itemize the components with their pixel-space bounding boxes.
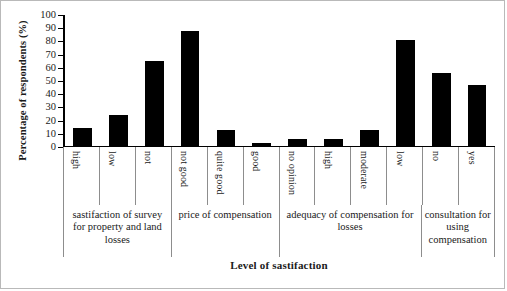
group-heading-label: price of compensation — [178, 209, 271, 221]
bar-slot — [280, 15, 316, 146]
category-cell: good — [244, 147, 280, 205]
bar-slot — [136, 15, 172, 146]
y-axis-tick — [58, 68, 63, 69]
bar-chart-figure: Percentage of respondents (%) 0102030405… — [0, 0, 505, 289]
y-axis-tick-label: 30 — [46, 102, 57, 113]
y-axis-tick — [58, 134, 63, 135]
y-axis-tick-label: 70 — [46, 49, 57, 60]
y-axis-tick — [58, 94, 63, 95]
y-axis-tick — [58, 28, 63, 29]
category-cell: low — [100, 147, 136, 205]
bar — [432, 73, 451, 146]
bar — [73, 128, 92, 145]
group-heading-cell: consultation for using compensation — [422, 205, 496, 257]
group-heading-cell: adequacy of compensation for losses — [280, 205, 422, 257]
y-axis-title: Percentage of respondents (%) — [17, 16, 28, 166]
y-axis-tick — [58, 81, 63, 82]
y-axis-tick-label: 100 — [40, 10, 56, 21]
category-label: moderate — [359, 151, 369, 189]
category-label: low — [395, 151, 405, 166]
bar — [396, 40, 415, 146]
category-label-table: highlownotnot goodquite goodgoodno opini… — [63, 147, 495, 257]
x-axis-title: Level of sastifaction — [63, 259, 495, 271]
y-axis-tick-label: 0 — [51, 142, 56, 153]
bar — [324, 139, 343, 146]
bar — [468, 85, 487, 146]
bar — [360, 130, 379, 146]
bar-slot — [387, 15, 423, 146]
group-heading-row: sastifaction of survey for property and … — [64, 205, 495, 257]
group-heading-cell: sastifaction of survey for property and … — [64, 205, 172, 257]
y-axis-tick — [58, 121, 63, 122]
group-heading-label: consultation for using compensation — [424, 209, 493, 246]
bar-slot — [316, 15, 352, 146]
bar-slot — [423, 15, 459, 146]
category-cell: no — [423, 147, 459, 205]
y-axis-tick-label: 80 — [46, 36, 57, 47]
bar — [217, 130, 236, 146]
y-axis-tick-label: 40 — [46, 89, 57, 100]
category-label: not good — [179, 151, 189, 187]
category-cell: high — [315, 147, 351, 205]
y-axis-tick-label: 50 — [46, 76, 57, 87]
category-label: high — [71, 151, 81, 169]
group-heading-label: adequacy of compensation for losses — [282, 209, 419, 234]
category-label: high — [323, 151, 333, 169]
category-cell: yes — [459, 147, 495, 205]
category-label: quite good — [215, 151, 225, 195]
plot-area: 0102030405060708090100 — [63, 15, 495, 147]
bar — [109, 115, 128, 145]
category-label: no — [431, 151, 441, 161]
y-axis-tick-label: 20 — [46, 115, 57, 126]
y-axis-tick-label: 90 — [46, 23, 57, 34]
y-axis-tick — [58, 107, 63, 108]
category-row: highlownotnot goodquite goodgoodno opini… — [64, 147, 495, 205]
category-cell: low — [387, 147, 423, 205]
y-axis-tick — [58, 15, 63, 16]
bar — [252, 143, 271, 146]
bar-slot — [459, 15, 495, 146]
category-cell: high — [64, 147, 100, 205]
y-axis-tick — [58, 55, 63, 56]
bar — [288, 139, 307, 146]
bar-slot — [244, 15, 280, 146]
bar-slot — [352, 15, 388, 146]
category-cell: not good — [172, 147, 208, 205]
bar-slot — [100, 15, 136, 146]
bar-slot — [65, 15, 101, 146]
bar-slot — [208, 15, 244, 146]
group-heading-label: sastifaction of survey for property and … — [66, 209, 169, 246]
category-label: no opinion — [287, 151, 297, 195]
category-cell: moderate — [351, 147, 387, 205]
category-cell: quite good — [208, 147, 244, 205]
category-label: not — [143, 151, 153, 164]
y-axis-tick-label: 60 — [46, 63, 57, 74]
bar-series — [65, 15, 496, 146]
category-label: low — [107, 151, 117, 166]
y-axis-tick-label: 10 — [46, 129, 57, 140]
bar — [181, 31, 200, 146]
y-axis-tick — [58, 41, 63, 42]
category-label: good — [251, 151, 261, 171]
category-cell: no opinion — [280, 147, 316, 205]
group-heading-cell: price of compensation — [172, 205, 280, 257]
bar — [145, 61, 164, 145]
category-cell: not — [136, 147, 172, 205]
category-label: yes — [467, 151, 477, 165]
bar-slot — [172, 15, 208, 146]
